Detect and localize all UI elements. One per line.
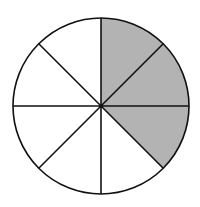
fraction-circle [0, 0, 200, 207]
center-point [99, 104, 103, 108]
diagram-canvas [0, 0, 200, 207]
